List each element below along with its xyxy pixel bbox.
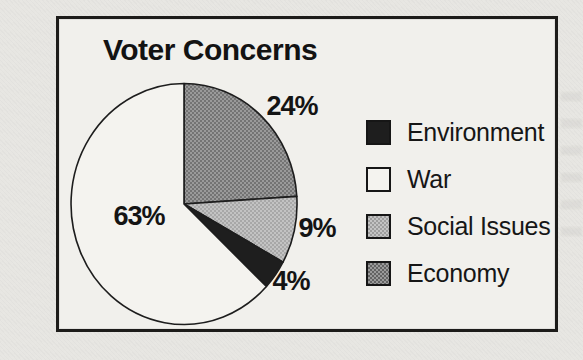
legend-label-war: War xyxy=(407,165,451,194)
legend-item-environment: Environment xyxy=(366,119,550,145)
legend-item-economy: Economy xyxy=(366,260,550,286)
pie-label-economy: 24% xyxy=(266,91,317,122)
legend-swatch-environment-icon xyxy=(366,120,391,145)
legend-item-social-issues: Social Issues xyxy=(366,213,550,239)
legend-label-social-issues: Social Issues xyxy=(407,212,550,241)
legend: Environment War Social Issues Economy xyxy=(366,119,550,286)
legend-label-economy: Economy xyxy=(407,259,509,288)
legend-swatch-war-icon xyxy=(366,167,391,192)
legend-swatch-economy-icon xyxy=(366,261,391,286)
legend-label-environment: Environment xyxy=(407,118,544,147)
pie-label-social-issues: 9% xyxy=(298,213,335,244)
scan-page: Voter Concerns 24% 63% 9% 4% Environment… xyxy=(0,0,583,360)
legend-item-war: War xyxy=(366,166,550,192)
legend-swatch-social-issues-icon xyxy=(366,214,391,239)
pie-label-environment: 4% xyxy=(272,266,309,297)
pie-label-war: 63% xyxy=(113,201,164,232)
